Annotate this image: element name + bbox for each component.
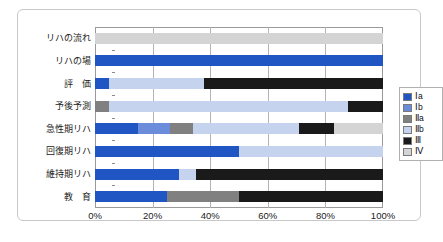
y-axis-label: 教 育: [36, 192, 91, 202]
bar-row: [95, 146, 383, 157]
bar-segment-Ⅰa: [95, 146, 239, 157]
bar-segment-Ⅲ: [299, 123, 334, 134]
bar-segment-Ⅳ: [334, 123, 383, 134]
bar-row: [95, 78, 383, 89]
bar-segment-Ⅱb: [109, 101, 348, 112]
bar-row: [95, 191, 383, 202]
x-axis-tick-label: 0%: [88, 210, 102, 221]
legend-label: Ⅰb: [415, 103, 423, 112]
bar-segment-Ⅲ: [204, 78, 383, 89]
legend-swatch-icon: [403, 148, 412, 156]
bar-segment-Ⅳ: [95, 33, 383, 44]
bar-segment-Ⅱb: [239, 146, 383, 157]
y-axis-label: 急性期リハ: [36, 124, 91, 134]
legend-swatch-icon: [403, 137, 412, 145]
legend-label: Ⅰa: [415, 92, 423, 101]
legend-item-Ⅳ[interactable]: Ⅳ: [403, 146, 440, 157]
bar-segment-Ⅱa: [167, 191, 239, 202]
bar-segment-Ⅰa: [95, 123, 138, 134]
bar-segment-Ⅱa: [170, 123, 193, 134]
x-axis-tick-label: 20%: [143, 210, 162, 221]
bar-row: [95, 33, 383, 44]
legend-swatch-icon: [403, 126, 412, 134]
legend-item-Ⅱb[interactable]: Ⅱb: [403, 124, 440, 135]
legend-label: Ⅱa: [415, 114, 424, 123]
x-axis-labels: 0%20%40%60%80%100%: [95, 210, 383, 224]
legend-swatch-icon: [403, 104, 412, 112]
legend-label: Ⅲ: [415, 136, 421, 145]
y-axis-label: リハの流れ: [36, 33, 91, 43]
bar-segment-Ⅰb: [138, 123, 170, 134]
legend-swatch-icon: [403, 115, 412, 123]
bar-row: [95, 101, 383, 112]
bar-segment-Ⅲ: [239, 191, 383, 202]
x-axis-tick-label: 80%: [316, 210, 335, 221]
bar-row: [95, 169, 383, 180]
y-axis-label: リハの場: [36, 56, 91, 66]
bar-segment-Ⅱb: [193, 123, 300, 134]
bar-segment-Ⅱb: [109, 78, 204, 89]
x-axis-tick-label: 60%: [258, 210, 277, 221]
bar-row: [95, 123, 383, 134]
plot-area: [95, 27, 383, 208]
bar-row: [95, 55, 383, 66]
bar-segment-Ⅰa: [95, 191, 167, 202]
y-axis-label: 予後予測: [36, 101, 91, 111]
bar-segment-Ⅰa: [95, 169, 179, 180]
x-axis-tick-label: 100%: [371, 210, 395, 221]
legend-item-Ⅲ[interactable]: Ⅲ: [403, 135, 440, 146]
legend-item-Ⅱa[interactable]: Ⅱa: [403, 113, 440, 124]
x-axis-tick-label: 40%: [201, 210, 220, 221]
y-axis-label: 評 価: [36, 79, 91, 89]
chart-frame: リハの流れリハの場評 価予後予測急性期リハ回復期リハ維持期リハ教 育 0%20%…: [17, 9, 421, 221]
bar-segment-Ⅱb: [179, 169, 196, 180]
legend-item-Ⅰa[interactable]: Ⅰa: [403, 91, 440, 102]
bar-segment-Ⅰa: [95, 55, 383, 66]
bar-rows: [95, 27, 383, 208]
legend-label: Ⅱb: [415, 125, 424, 134]
legend-label: Ⅳ: [415, 147, 423, 156]
bar-segment-Ⅲ: [348, 101, 383, 112]
bar-segment-Ⅱa: [95, 101, 109, 112]
y-axis-label: 回復期リハ: [36, 146, 91, 156]
bar-segment-Ⅰa: [95, 78, 109, 89]
y-axis-label: 維持期リハ: [36, 169, 91, 179]
y-axis-labels: リハの流れリハの場評 価予後予測急性期リハ回復期リハ維持期リハ教 育: [38, 27, 93, 208]
legend-swatch-icon: [403, 93, 412, 101]
chart-legend: ⅠaⅠbⅡaⅡbⅢⅣ: [399, 87, 443, 161]
legend-item-Ⅰb[interactable]: Ⅰb: [403, 102, 440, 113]
bar-segment-Ⅲ: [196, 169, 383, 180]
